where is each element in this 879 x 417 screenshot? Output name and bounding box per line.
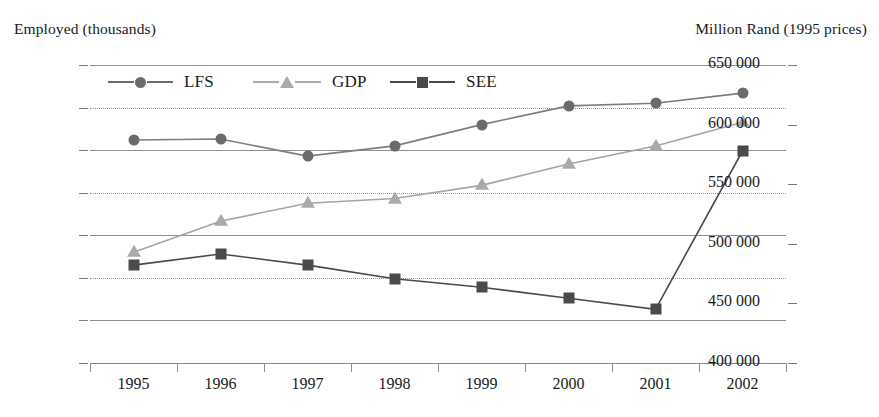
y-axis-left-tick xyxy=(79,320,88,321)
data-point-lfs-1995 xyxy=(128,134,139,145)
x-axis-tick xyxy=(177,363,178,372)
x-axis-tick xyxy=(90,363,91,372)
x-axis-tick xyxy=(525,363,526,372)
data-point-lfs-1998 xyxy=(389,140,400,151)
data-point-see-2000 xyxy=(563,293,574,304)
data-point-see-1996 xyxy=(215,249,226,260)
y-axis-left-tick xyxy=(79,278,88,279)
y-axis-right-label: 400 000 xyxy=(708,352,760,370)
x-axis-label-1997: 1997 xyxy=(263,375,353,393)
data-point-gdp-2000 xyxy=(562,157,576,169)
series-lines xyxy=(90,65,786,363)
plot-area xyxy=(90,65,786,363)
x-axis-tick xyxy=(351,363,352,372)
data-point-gdp-1996 xyxy=(214,214,228,226)
y-axis-left-tick xyxy=(79,108,88,109)
x-axis-tick xyxy=(699,363,700,372)
data-point-gdp-2001 xyxy=(649,139,663,151)
y-axis-left-tick xyxy=(79,193,88,194)
data-point-see-1998 xyxy=(389,273,400,284)
data-point-see-1995 xyxy=(128,260,139,271)
x-axis-label-1996: 1996 xyxy=(176,375,266,393)
y-axis-left-tick xyxy=(79,150,88,151)
chart-container: Employed (thousands) Million Rand (1995 … xyxy=(0,0,879,417)
series-line-see xyxy=(134,151,743,309)
data-point-lfs-1999 xyxy=(476,119,487,130)
y-axis-right-tick xyxy=(788,65,797,66)
data-point-lfs-2001 xyxy=(650,98,661,109)
y-axis-right-tick xyxy=(788,244,797,245)
x-axis-label-1995: 1995 xyxy=(89,375,179,393)
x-axis-label-1998: 1998 xyxy=(350,375,440,393)
y-axis-right-label: 600 000 xyxy=(708,114,760,132)
right-axis-title: Million Rand (1995 prices) xyxy=(695,20,867,38)
data-point-lfs-1996 xyxy=(215,134,226,145)
x-axis-label-2002: 2002 xyxy=(698,375,788,393)
x-axis-tick xyxy=(264,363,265,372)
y-axis-right-tick xyxy=(788,363,797,364)
y-axis-left-tick xyxy=(79,235,88,236)
left-axis-title: Employed (thousands) xyxy=(14,20,156,38)
x-axis-label-2000: 2000 xyxy=(524,375,614,393)
y-axis-left-tick xyxy=(79,65,88,66)
data-point-lfs-2002 xyxy=(737,88,748,99)
data-point-see-2002 xyxy=(737,145,748,156)
x-axis-label-2001: 2001 xyxy=(611,375,701,393)
y-axis-right-tick xyxy=(788,184,797,185)
y-axis-right-tick xyxy=(788,303,797,304)
x-axis-tick xyxy=(438,363,439,372)
data-point-lfs-1997 xyxy=(302,151,313,162)
data-point-see-1997 xyxy=(302,260,313,271)
y-axis-right-label: 450 000 xyxy=(708,292,760,310)
data-point-see-2001 xyxy=(650,304,661,315)
x-axis-tick xyxy=(786,363,787,372)
data-point-lfs-2000 xyxy=(563,100,574,111)
y-axis-right-label: 550 000 xyxy=(708,173,760,191)
data-point-gdp-1999 xyxy=(475,178,489,190)
y-axis-left-tick xyxy=(79,363,88,364)
y-axis-right-label: 650 000 xyxy=(708,54,760,72)
data-point-see-1999 xyxy=(476,282,487,293)
data-point-gdp-1998 xyxy=(388,191,402,203)
y-axis-right-tick xyxy=(788,125,797,126)
data-point-gdp-1995 xyxy=(127,245,141,257)
y-axis-right-label: 500 000 xyxy=(708,233,760,251)
x-axis-label-1999: 1999 xyxy=(437,375,527,393)
x-axis-tick xyxy=(612,363,613,372)
data-point-gdp-1997 xyxy=(301,196,315,208)
